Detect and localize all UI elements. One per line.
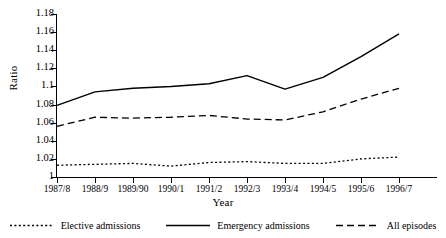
y-tick-label: 1.08 (20, 99, 54, 109)
y-tick-mark (51, 123, 57, 124)
y-tick-mark (51, 32, 57, 33)
chart-legend: Elective admissionsEmergency admissionsA… (0, 216, 446, 234)
x-tick-mark (209, 178, 210, 183)
y-tick-label: 1 (20, 171, 54, 181)
legend-item[interactable]: Emergency admissions (166, 220, 309, 231)
y-tick-mark (51, 141, 57, 142)
x-tick-label: 1996/7 (369, 184, 429, 195)
y-tick-label: 1.16 (20, 26, 54, 36)
series-line (57, 157, 399, 166)
y-axis-tick-labels: 11.021.041.061.081.11.121.141.161.18 (14, 0, 54, 190)
x-tick-mark (171, 178, 172, 183)
y-tick-label: 1.14 (20, 44, 54, 54)
plot-area (57, 14, 437, 177)
legend-item[interactable]: All episodes (336, 220, 437, 231)
legend-label: Elective admissions (61, 220, 141, 231)
x-tick-mark (361, 178, 362, 183)
dashed-line-icon (336, 222, 380, 229)
y-tick-mark (51, 50, 57, 51)
legend-item[interactable]: Elective admissions (10, 220, 141, 231)
x-tick-mark (285, 178, 286, 183)
x-tick-mark (247, 178, 248, 183)
x-tick-mark (399, 178, 400, 183)
x-tick-mark (133, 178, 134, 183)
x-axis-title: Year (0, 196, 446, 208)
series-lines (57, 14, 437, 177)
dotted-line-icon (10, 222, 54, 229)
y-tick-label: 1.1 (20, 80, 54, 90)
series-line (57, 34, 399, 106)
line-chart: Ratio 11.021.041.061.081.11.121.141.161.… (0, 0, 446, 238)
y-tick-mark (51, 14, 57, 15)
y-tick-mark (51, 159, 57, 160)
x-tick-mark (57, 178, 58, 183)
x-tick-mark (323, 178, 324, 183)
y-tick-label: 1.06 (20, 117, 54, 127)
y-tick-label: 1.02 (20, 153, 54, 163)
y-tick-label: 1.04 (20, 135, 54, 145)
legend-label: Emergency admissions (217, 220, 309, 231)
y-tick-mark (51, 86, 57, 87)
x-tick-mark (95, 178, 96, 183)
y-tick-mark (51, 68, 57, 69)
legend-label: All episodes (387, 220, 437, 231)
solid-line-icon (166, 222, 210, 229)
series-line (57, 88, 399, 126)
y-tick-label: 1.18 (20, 8, 54, 18)
y-tick-mark (51, 105, 57, 106)
y-tick-label: 1.12 (20, 62, 54, 72)
